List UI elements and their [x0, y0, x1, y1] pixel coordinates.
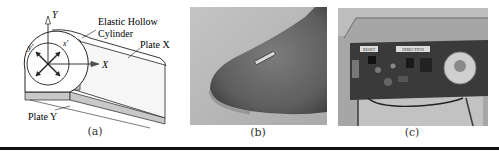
axis-y-label: Y: [52, 9, 59, 20]
caption-a: (a): [80, 125, 110, 138]
fingertip-photo: [190, 7, 327, 125]
cylinder-label: Cylinder: [98, 28, 134, 39]
axis-y-prime-label: y': [27, 43, 34, 52]
axis-x-label: X: [101, 59, 109, 70]
panel-b-photo: [190, 7, 327, 125]
caption-c: (c): [397, 126, 427, 139]
direction-board-label: DIRECTION: [402, 47, 424, 52]
plate-x-label: Plate X: [140, 39, 170, 50]
axis-x-prime-label: x': [62, 39, 69, 48]
circuit-board-photo: RESET DIRECTION: [338, 8, 488, 126]
figure-bottom-rule: [0, 147, 499, 150]
caption-b: (b): [243, 126, 273, 139]
panel-c-photo: RESET DIRECTION: [338, 8, 488, 126]
reset-board-label: RESET: [363, 47, 376, 52]
elastic-hollow-label: Elastic Hollow: [98, 16, 158, 27]
panel-a-diagram: Y X y' x' Elastic Hollow Cylinder Plate …: [0, 0, 180, 130]
plate-y-label: Plate Y: [28, 111, 57, 122]
elastic-cylinder-diagram: Y X y' x' Elastic Hollow Cylinder Plate …: [0, 0, 180, 130]
